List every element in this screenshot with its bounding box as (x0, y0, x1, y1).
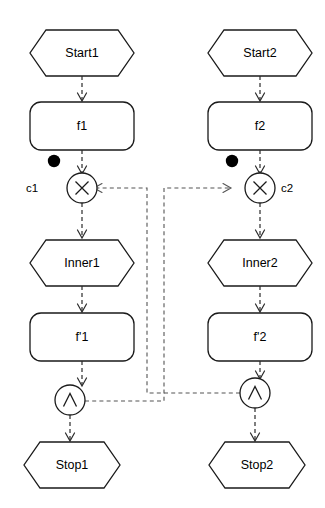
node-start1-label: Start1 (65, 46, 98, 60)
node-inner2[interactable]: Inner2 (208, 240, 312, 286)
token-dot-icon (48, 155, 60, 167)
node-fprime1[interactable]: f'1 (30, 313, 134, 361)
node-c1-label: c1 (26, 182, 38, 194)
edge-inner1-to-fprime1 (78, 286, 87, 312)
edge-f2-to-c2 (256, 150, 265, 174)
sync-edge-left-join-to-right-choice (85, 184, 231, 402)
node-stop2[interactable]: Stop2 (209, 442, 305, 488)
node-fprime1-label: f'1 (76, 330, 89, 344)
node-join1-and-gate[interactable] (55, 385, 85, 415)
node-c2-choice-gate[interactable]: c2 (245, 173, 293, 203)
node-c1-choice-gate[interactable]: c1 (26, 173, 97, 203)
node-f2-label: f2 (255, 119, 265, 133)
node-f1[interactable]: f1 (30, 102, 134, 150)
edge-start1-to-f1 (78, 76, 87, 101)
node-start1[interactable]: Start1 (30, 30, 134, 76)
node-f2[interactable]: f2 (208, 102, 312, 150)
edge-join2-to-stop2 (251, 408, 260, 441)
sync-edge-path (85, 188, 230, 401)
node-stop1-label: Stop1 (56, 458, 89, 472)
node-inner1[interactable]: Inner1 (30, 240, 134, 286)
edge-start2-to-f2 (256, 76, 265, 101)
sync-edge-path (95, 188, 240, 393)
edge-inner2-to-fprime2 (256, 286, 265, 312)
node-start2-label: Start2 (243, 46, 276, 60)
node-fprime2[interactable]: f'2 (208, 313, 312, 361)
diagram-canvas: Start1 f1 c1 (0, 0, 325, 508)
edge-join1-to-stop1 (66, 415, 75, 441)
edge-c2-to-inner2 (256, 203, 265, 238)
circle-shape (240, 378, 270, 408)
token-dot-icon (226, 155, 238, 167)
edge-c1-to-inner1 (78, 203, 87, 238)
node-stop2-label: Stop2 (241, 458, 274, 472)
flowchart-diagram: Start1 f1 c1 (0, 0, 325, 508)
circle-shape (55, 385, 85, 415)
edge-f1-to-c1 (78, 150, 87, 174)
node-f1-label: f1 (77, 119, 87, 133)
edge-fprime2-to-join2 (256, 361, 265, 379)
node-start2[interactable]: Start2 (208, 30, 312, 76)
node-inner2-label: Inner2 (242, 256, 277, 270)
node-fprime2-label: f'2 (254, 330, 267, 344)
node-inner1-label: Inner1 (64, 256, 99, 270)
node-stop1[interactable]: Stop1 (24, 442, 120, 488)
node-join2-and-gate[interactable] (240, 378, 270, 408)
node-c2-label: c2 (281, 182, 293, 194)
edge-fprime1-to-join1 (78, 361, 87, 386)
